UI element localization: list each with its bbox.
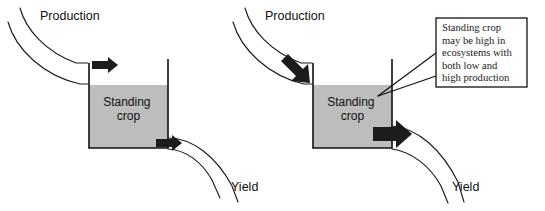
outflow-channel-left <box>168 138 238 202</box>
tank-label-left-line1: Standing <box>103 95 150 109</box>
callout-text-line-5: high production <box>442 72 510 83</box>
inflow-arrow-right-glyph <box>281 54 310 83</box>
inflow-curve-lower-left <box>8 22 88 84</box>
callout-text-line-1: Standing crop <box>442 22 501 33</box>
tank-label-left-line2: crop <box>117 109 141 123</box>
callout-text-line-2: may be high in <box>442 35 506 46</box>
outflow-curve-lower-left <box>168 149 220 198</box>
callout-annotation: Standing crop may be high in ecosystems … <box>378 18 527 96</box>
callout-leader-line-1 <box>378 53 436 96</box>
callout-text-line-4: both low and <box>442 60 498 71</box>
inflow-arrow-left-glyph <box>92 57 118 73</box>
ecosystem-flow-diagram: Standing crop Production Yield <box>0 0 545 211</box>
inflow-label-left: Production <box>40 9 100 23</box>
outflow-curve-upper-left <box>168 138 238 202</box>
outflow-label-left: Yield <box>231 180 258 194</box>
inflow-arrow-right <box>281 54 310 83</box>
diagram-canvas: Standing crop Production Yield <box>0 0 545 211</box>
outflow-curve-lower-right <box>392 149 448 203</box>
inflow-label-right: Production <box>265 9 325 23</box>
outflow-label-right: Yield <box>452 180 479 194</box>
inflow-arrow-left <box>92 57 118 73</box>
callout-text-line-3: ecosystems with <box>442 47 512 58</box>
tank-label-right-line1: Standing <box>327 95 374 109</box>
tank-label-right-line2: crop <box>341 109 365 123</box>
panel-low-production: Standing crop Production Yield <box>8 8 258 202</box>
callout-text: Standing crop may be high in ecosystems … <box>442 22 514 83</box>
